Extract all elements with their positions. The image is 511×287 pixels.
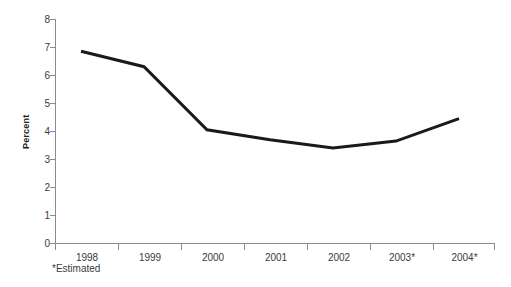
line-chart: Percent 8 7 6 5 4 3 2 1 0	[0, 0, 511, 287]
plot-area	[0, 0, 511, 287]
x-axis-tick-label: 2003*	[371, 252, 433, 263]
x-axis-tick-label: 2001	[245, 252, 307, 263]
x-axis-ticks	[56, 244, 495, 251]
x-axis-tick-label: 2004*	[434, 252, 495, 263]
footnote-estimated: *Estimated	[52, 263, 100, 274]
data-series-line	[81, 51, 459, 148]
x-axis-tick-label: 1999	[119, 252, 181, 263]
x-axis-tick-label: 2000	[182, 252, 244, 263]
y-axis-ticks	[50, 20, 56, 244]
x-axis-tick-label: 2002	[308, 252, 370, 263]
x-axis-tick-label: 1998	[56, 252, 118, 263]
